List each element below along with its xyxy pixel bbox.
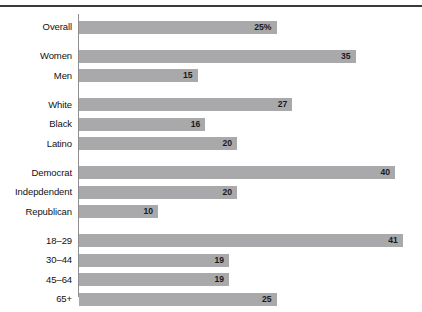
bar-category-label: Republican — [0, 205, 72, 219]
bar-category-label: Men — [0, 69, 72, 83]
plot-area: Overall25%Women35Men15White27Black16Lati… — [0, 14, 422, 298]
bar-category-label: White — [0, 98, 72, 112]
bar: 19 — [79, 254, 229, 267]
bar-value-label: 40 — [380, 166, 390, 179]
bar-value-label: 35 — [341, 50, 351, 63]
bar-row: 30–4419 — [0, 253, 422, 267]
bar: 20 — [79, 137, 237, 150]
bar-category-label: 65+ — [0, 292, 72, 306]
bar: 20 — [79, 186, 237, 199]
bar-row: Men15 — [0, 69, 422, 83]
bar-value-label: 15 — [183, 69, 193, 82]
bar: 27 — [79, 98, 292, 111]
bar-category-label: Democrat — [0, 166, 72, 180]
bar-row: Republican10 — [0, 205, 422, 219]
bar: 40 — [79, 166, 395, 179]
bar-row: Women35 — [0, 49, 422, 63]
bar-row: Democrat40 — [0, 166, 422, 180]
top-divider-rule — [0, 5, 422, 7]
bar-value-label: 20 — [222, 137, 232, 150]
bar-row: 65+25 — [0, 292, 422, 306]
bar-category-label: Latino — [0, 137, 72, 151]
bar-value-label: 41 — [388, 234, 398, 247]
bar-row: Indepdendent20 — [0, 185, 422, 199]
bar-value-label: 19 — [215, 254, 225, 267]
bar-category-label: Overall — [0, 20, 72, 34]
bar-row: Overall25% — [0, 20, 422, 34]
bar-category-label: 18–29 — [0, 234, 72, 248]
bar-value-label: 10 — [143, 205, 153, 218]
bar: 25% — [79, 21, 277, 34]
bar-category-label: 30–44 — [0, 253, 72, 267]
bar-category-label: Women — [0, 49, 72, 63]
bar-chart-figure: Overall25%Women35Men15White27Black16Lati… — [0, 0, 422, 312]
bar: 41 — [79, 234, 403, 247]
bar-value-label: 16 — [191, 118, 201, 131]
bar: 35 — [79, 50, 356, 63]
bar-value-label: 25% — [254, 21, 271, 34]
bar: 10 — [79, 205, 158, 218]
bar-category-label: 45–64 — [0, 273, 72, 287]
bar-row: White27 — [0, 98, 422, 112]
bar-category-label: Indepdendent — [0, 185, 72, 199]
bar-row: 18–2941 — [0, 234, 422, 248]
bar-row: Black16 — [0, 117, 422, 131]
bar-value-label: 20 — [222, 186, 232, 199]
bar-category-label: Black — [0, 117, 72, 131]
bar-value-label: 27 — [278, 98, 288, 111]
bar-row: 45–6419 — [0, 273, 422, 287]
bar: 25 — [79, 293, 277, 306]
bar: 19 — [79, 273, 229, 286]
bar-row: Latino20 — [0, 137, 422, 151]
bar-value-label: 25 — [262, 293, 272, 306]
bar-value-label: 19 — [215, 273, 225, 286]
bar: 15 — [79, 69, 198, 82]
bar: 16 — [79, 118, 205, 131]
